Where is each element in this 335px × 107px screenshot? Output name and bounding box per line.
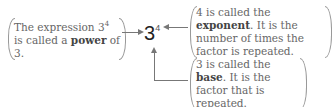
base-note-text: 3 is called the [196, 58, 270, 70]
base-note: 3 is called the base. It is the factor t… [190, 58, 307, 107]
power-note: The expression 34 is called a power of 3… [8, 18, 126, 60]
exponent-note: 4 is called the exponent. It is the numb… [190, 6, 332, 58]
base-term: base [196, 71, 223, 83]
power-note-sup: 4 [105, 20, 109, 28]
right-paren [300, 58, 307, 107]
right-paren [325, 6, 332, 58]
base-value: 3 [144, 22, 155, 44]
arrow-exponent [168, 27, 188, 28]
exponent-note-text: 4 is called the [196, 6, 270, 18]
left-paren [190, 6, 197, 58]
exponent-value: 4 [155, 23, 160, 33]
power-note-text2: is called a [14, 34, 71, 46]
power-note-text: The expression 3 [14, 21, 105, 33]
power-expression: 34 [144, 22, 160, 45]
arrowhead-icon [163, 24, 169, 30]
arrow-base-horizontal [154, 80, 188, 81]
right-paren [119, 18, 126, 60]
left-paren [190, 58, 197, 107]
arrow-base-vertical [154, 52, 155, 80]
power-term: power [71, 34, 107, 46]
arrowhead-icon [151, 47, 157, 53]
exponent-term: exponent [196, 19, 250, 31]
left-paren [8, 18, 15, 60]
